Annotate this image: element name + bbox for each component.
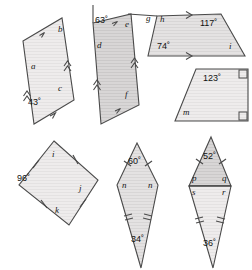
label-i-top: i xyxy=(52,150,55,159)
label-e: e xyxy=(125,20,129,29)
label-angle-117: 117˚ xyxy=(200,19,217,28)
parallelogram-abc-outline xyxy=(23,18,74,124)
label-a: a xyxy=(31,62,36,71)
label-angle-74: 74˚ xyxy=(157,42,170,51)
label-f: f xyxy=(125,90,128,99)
label-j: j xyxy=(79,184,82,193)
label-n-left: n xyxy=(122,181,127,190)
label-b: b xyxy=(58,25,63,34)
geometry-figures-svg xyxy=(0,0,252,270)
kite-lower-triangle xyxy=(189,186,231,268)
label-g: g xyxy=(146,14,151,23)
label-angle-52: 52˚ xyxy=(203,152,216,161)
label-angle-36: 36˚ xyxy=(203,239,216,248)
diagram-canvas: a b c 43˚ d e f 63˚ g h i 117˚ 74˚ 123˚ … xyxy=(0,0,252,270)
label-p: p xyxy=(192,174,197,183)
label-angle-34: 34˚ xyxy=(131,235,144,244)
label-h: h xyxy=(160,15,165,24)
label-k: k xyxy=(55,206,59,215)
label-angle-123: 123˚ xyxy=(203,74,221,83)
label-q: q xyxy=(222,174,227,183)
figure-parallelogram-abc xyxy=(23,18,74,124)
label-r: r xyxy=(222,188,226,197)
exterior-ray xyxy=(128,14,157,16)
label-angle-96: 96˚ xyxy=(17,174,30,183)
label-angle-63: 63˚ xyxy=(95,16,108,25)
label-d: d xyxy=(97,41,102,50)
label-i-right: i xyxy=(229,42,232,51)
label-angle-60: 60˚ xyxy=(128,157,141,166)
label-s: s xyxy=(192,188,196,197)
label-n-right: n xyxy=(148,181,153,190)
label-m: m xyxy=(183,108,190,117)
label-c: c xyxy=(58,84,62,93)
label-angle-43: 43˚ xyxy=(28,98,41,107)
parallelogram-def-outline xyxy=(93,14,139,124)
